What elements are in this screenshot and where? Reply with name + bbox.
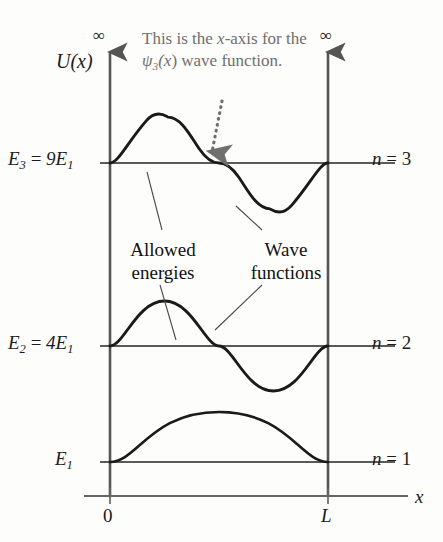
annotation-x-italic: x [217, 29, 225, 48]
n-value-2: 2 [402, 332, 412, 353]
annotation-pointer-arrow [212, 101, 222, 152]
infinity-symbol-left: ∞ [93, 26, 105, 46]
annotation-text: This is the x-axis for the ψ3(x) wave fu… [142, 28, 317, 73]
energy-subscript-3: 3 [20, 158, 26, 172]
callout-wave-functions: Wave functions [240, 238, 332, 284]
infinity-symbol-right: ∞ [320, 26, 332, 46]
n-value-1: 1 [402, 448, 412, 469]
callout-allowed-energies: Allowed energies [115, 238, 211, 284]
energy-coefficient-n2: 4E [46, 332, 67, 353]
energy-label-n2: E2 = 4E1 [8, 332, 73, 357]
n-equals-1: = [386, 448, 397, 469]
n-equals-2: = [386, 332, 397, 353]
energy-coefficient-n3: 9E [46, 148, 67, 169]
n-variable-2: n [372, 332, 382, 353]
quantum-number-label-n1: n = 1 [372, 448, 411, 470]
energy-symbol-E3: E [8, 148, 20, 169]
energy-label-n3: E3 = 9E1 [8, 148, 73, 173]
annotation-line1-pre: This is the [142, 29, 217, 48]
leader-line-wave-to-n2 [215, 285, 262, 330]
energy-coefficient-subscript-n3: 1 [67, 158, 73, 172]
leader-line-allowed-to-n2 [160, 285, 176, 340]
callout-allowed-line1: Allowed [130, 239, 195, 260]
n-value-3: 3 [402, 148, 412, 169]
energy-label-n1: E1 [55, 448, 73, 473]
x-axis-label: x [415, 486, 423, 508]
annotation-of-x: (x [158, 51, 171, 70]
annotation-line2-pre: for the [262, 29, 307, 48]
y-axis-label: U(x) [56, 50, 93, 74]
callout-wave-line1: Wave [265, 239, 308, 260]
x-tick-label-zero: 0 [103, 505, 113, 527]
energy-symbol-E2: E [8, 332, 20, 353]
callout-wave-line2: functions [251, 262, 322, 283]
annotation-psi: ψ [142, 51, 153, 70]
x-tick-label-L: L [321, 505, 332, 527]
annotation-line1-post: -axis [225, 29, 258, 48]
n-variable-3: n [372, 148, 382, 169]
annotation-line2-post: ) wave [171, 51, 217, 70]
callout-allowed-line2: energies [132, 262, 195, 283]
equals-sign-n3: = [31, 148, 42, 169]
quantum-number-label-n3: n = 3 [372, 148, 411, 170]
leader-line-wave-to-n3 [236, 206, 262, 230]
annotation-line3: function. [221, 51, 282, 70]
n-equals-3: = [386, 148, 397, 169]
equals-sign-n2: = [31, 332, 42, 353]
energy-symbol-E1: E [55, 448, 67, 469]
energy-subscript-2: 2 [20, 342, 26, 356]
leader-line-allowed-to-n3 [147, 172, 162, 230]
quantum-well-diagram: U(x) ∞ ∞ This is the x-axis for the ψ3(x… [0, 0, 443, 542]
n-variable-1: n [372, 448, 382, 469]
quantum-number-label-n2: n = 2 [372, 332, 411, 354]
wave-function-n1 [110, 412, 328, 462]
energy-subscript-1: 1 [67, 458, 73, 472]
energy-coefficient-subscript-n2: 1 [67, 342, 73, 356]
